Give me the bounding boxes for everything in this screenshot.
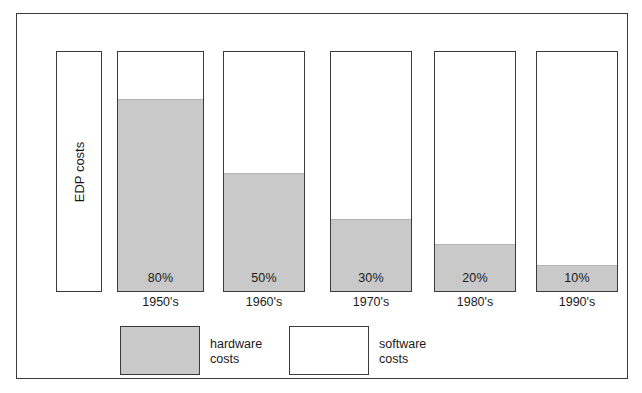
legend-swatch-hardware [120,326,200,375]
legend-label-software: software costs [379,337,426,367]
bar-1950s-category-label: 1950's [117,295,204,309]
reference-bar-edp-costs: EDP costs [56,51,102,292]
legend-swatch-software [289,326,369,375]
axis-label-edp-costs: EDP costs [72,141,87,201]
bar-1980s-category-label: 1980's [434,295,516,309]
chart-frame-border: EDP costs 80% 1950's 50% 1960's 30% 1970… [16,13,628,379]
bar-1990s-category-label: 1990's [536,295,618,309]
bar-1950s: 80% [117,51,204,292]
bar-1960s: 50% [223,51,305,292]
bar-1970s-percent-label: 30% [331,271,411,285]
bar-1960s-category-label: 1960's [223,295,305,309]
legend-label-hardware: hardware costs [210,337,262,367]
bar-1950s-percent-label: 80% [118,271,203,285]
bar-1970s-category-label: 1970's [330,295,412,309]
bar-1980s-percent-label: 20% [435,271,515,285]
chart-canvas: EDP costs 80% 1950's 50% 1960's 30% 1970… [0,0,642,393]
bar-1970s: 30% [330,51,412,292]
bar-1990s: 10% [536,51,618,292]
bar-1980s: 20% [434,51,516,292]
bar-1960s-percent-label: 50% [224,271,304,285]
bar-1990s-percent-label: 10% [537,271,617,285]
bar-1950s-hardware-segment [118,99,203,291]
